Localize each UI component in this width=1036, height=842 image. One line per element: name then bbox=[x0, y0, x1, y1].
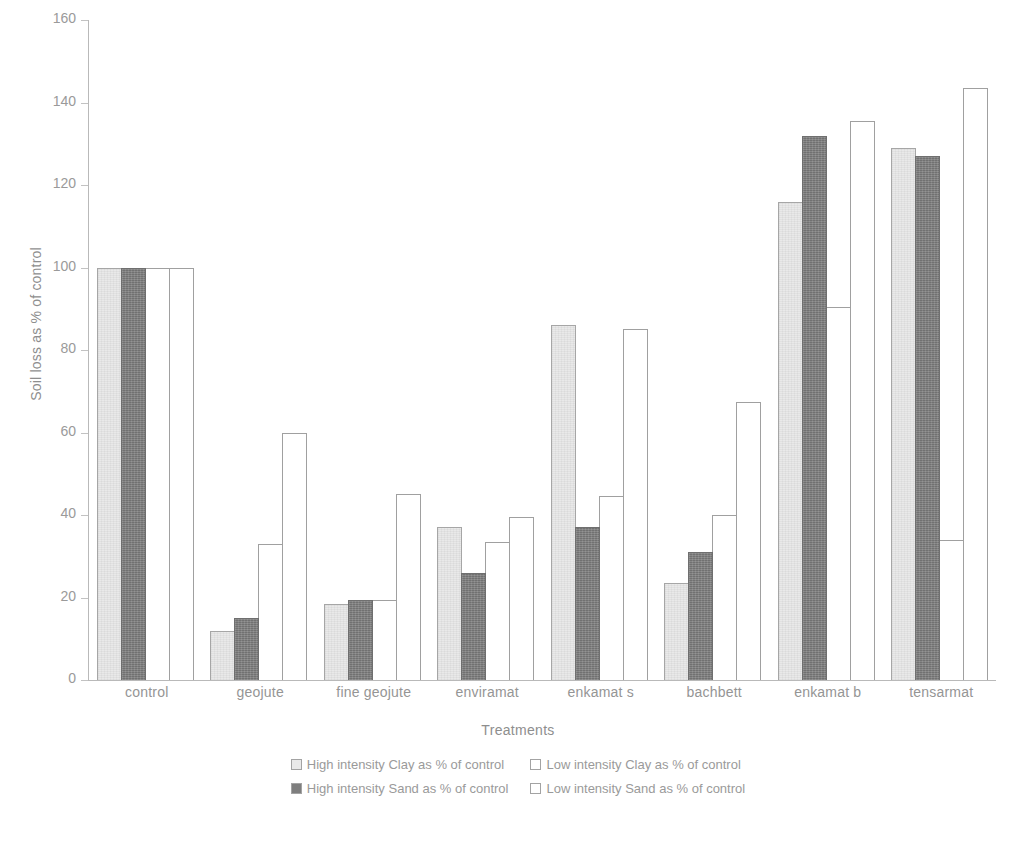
bar bbox=[234, 618, 259, 680]
bar bbox=[121, 268, 146, 681]
bar-group: enviramat bbox=[437, 20, 537, 680]
bar-group-bars bbox=[437, 20, 537, 680]
light-gray-swatch bbox=[291, 759, 302, 770]
y-tick-label: 80 bbox=[60, 340, 76, 356]
bar bbox=[324, 604, 349, 680]
bar bbox=[210, 631, 235, 681]
bar bbox=[575, 527, 600, 680]
bar bbox=[826, 307, 851, 680]
bar bbox=[485, 542, 510, 680]
y-tick-label: 40 bbox=[60, 505, 76, 521]
y-tick-mark bbox=[81, 185, 88, 186]
bar bbox=[97, 268, 122, 681]
bar bbox=[258, 544, 283, 680]
bar bbox=[372, 600, 397, 680]
legend-item-label: Low intensity Sand as % of control bbox=[546, 781, 745, 796]
bar-group: tensarmat bbox=[891, 20, 991, 680]
bar bbox=[915, 156, 940, 680]
legend-item: Low intensity Clay as % of control bbox=[530, 757, 745, 772]
y-tick-mark bbox=[81, 433, 88, 434]
plot-area: 020406080100120140160 controlgeojutefine… bbox=[88, 20, 996, 681]
bar-group: geojute bbox=[210, 20, 310, 680]
bar bbox=[778, 202, 803, 681]
y-tick-mark bbox=[81, 680, 88, 681]
y-tick-mark bbox=[81, 20, 88, 21]
legend-item: Low intensity Sand as % of control bbox=[530, 781, 745, 796]
bar-group-bars bbox=[551, 20, 651, 680]
bar-group-bars bbox=[97, 20, 197, 680]
bar-group: enkamat s bbox=[551, 20, 651, 680]
legend-item: High intensity Clay as % of control bbox=[291, 757, 509, 772]
bar bbox=[688, 552, 713, 680]
bar bbox=[437, 527, 462, 680]
legend-item: High intensity Sand as % of control bbox=[291, 781, 509, 796]
y-axis-line bbox=[88, 20, 89, 681]
y-tick-mark bbox=[81, 268, 88, 269]
bar bbox=[145, 268, 170, 681]
bar bbox=[664, 583, 689, 680]
y-tick-label: 160 bbox=[53, 10, 76, 26]
x-axis-title: Treatments bbox=[0, 722, 1036, 738]
x-tick-label: fine geojute bbox=[324, 684, 424, 700]
y-tick-label: 140 bbox=[53, 93, 76, 109]
bar-group-bars bbox=[324, 20, 424, 680]
bar-group-bars bbox=[664, 20, 764, 680]
y-tick-mark bbox=[81, 598, 88, 599]
white-swatch bbox=[530, 759, 541, 770]
y-tick-label: 100 bbox=[53, 258, 76, 274]
legend-grid: High intensity Clay as % of controlLow i… bbox=[291, 757, 745, 796]
x-tick-label: bachbett bbox=[664, 684, 764, 700]
y-axis-title: Soil loss as % of control bbox=[28, 194, 44, 454]
bar bbox=[802, 136, 827, 681]
bar-group-bars bbox=[210, 20, 310, 680]
y-tick-mark bbox=[81, 350, 88, 351]
bar-group-bars bbox=[778, 20, 878, 680]
x-tick-label: geojute bbox=[210, 684, 310, 700]
x-tick-label: control bbox=[97, 684, 197, 700]
bar-chart: Soil loss as % of control 02040608010012… bbox=[0, 0, 1036, 842]
y-tick-label: 0 bbox=[68, 670, 76, 686]
bar bbox=[891, 148, 916, 680]
bar bbox=[461, 573, 486, 680]
bar-group: enkamat b bbox=[778, 20, 878, 680]
legend-item-label: High intensity Sand as % of control bbox=[307, 781, 509, 796]
bar bbox=[282, 433, 307, 681]
bar bbox=[348, 600, 373, 680]
legend-item-label: High intensity Clay as % of control bbox=[307, 757, 504, 772]
bar-group-bars bbox=[891, 20, 991, 680]
bar bbox=[939, 540, 964, 680]
chart-legend: High intensity Clay as % of controlLow i… bbox=[0, 757, 1036, 796]
bar bbox=[850, 121, 875, 680]
y-tick-label: 20 bbox=[60, 588, 76, 604]
bar-group: fine geojute bbox=[324, 20, 424, 680]
x-tick-label: enviramat bbox=[437, 684, 537, 700]
bar bbox=[169, 268, 194, 681]
y-tick-label: 60 bbox=[60, 423, 76, 439]
bar bbox=[396, 494, 421, 680]
legend-item-label: Low intensity Clay as % of control bbox=[546, 757, 740, 772]
bar-group: control bbox=[97, 20, 197, 680]
white-swatch bbox=[530, 783, 541, 794]
x-tick-label: enkamat s bbox=[551, 684, 651, 700]
bar bbox=[623, 329, 648, 680]
y-tick-mark bbox=[81, 515, 88, 516]
y-tick-mark bbox=[81, 103, 88, 104]
bar bbox=[963, 88, 988, 680]
bar bbox=[551, 325, 576, 680]
bar bbox=[509, 517, 534, 680]
x-axis-line bbox=[88, 680, 996, 681]
bar bbox=[712, 515, 737, 680]
x-tick-label: tensarmat bbox=[891, 684, 991, 700]
bar-group: bachbett bbox=[664, 20, 764, 680]
y-tick-label: 120 bbox=[53, 175, 76, 191]
x-tick-label: enkamat b bbox=[778, 684, 878, 700]
bar bbox=[736, 402, 761, 680]
bar bbox=[599, 496, 624, 680]
dark-gray-swatch bbox=[291, 783, 302, 794]
